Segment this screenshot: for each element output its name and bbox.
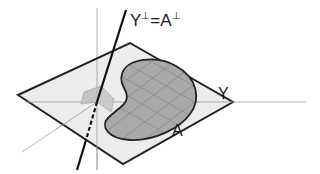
region-label: A [172,122,183,139]
perp-line-label: Y⊥=A⊥ [130,10,181,30]
perp-line-lower [77,140,86,170]
plane-label: Y [218,85,229,102]
subspace-diagram: Y⊥=A⊥ Y A [0,0,320,174]
